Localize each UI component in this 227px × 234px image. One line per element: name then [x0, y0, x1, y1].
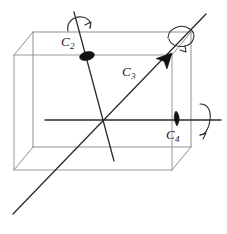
figure-container: C 2 C 3 C 4	[0, 0, 227, 234]
label-c2-base: C	[61, 34, 70, 49]
symmetry-axes-diagram: C 2 C 3 C 4	[0, 0, 227, 234]
label-c4-base: C	[166, 127, 175, 142]
label-c2-subscript: 2	[70, 41, 75, 51]
figure-background	[0, 0, 227, 234]
label-c3-subscript: 3	[130, 71, 136, 81]
label-c4-subscript: 4	[175, 134, 180, 144]
label-c3-base: C	[122, 64, 131, 79]
